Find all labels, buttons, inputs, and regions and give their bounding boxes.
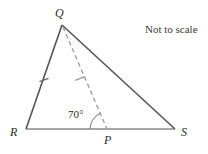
geometry-figure: Q R S P 70° Not to scale xyxy=(0,0,208,154)
vertex-label-Q: Q xyxy=(55,7,64,19)
angle-label-QPR: 70° xyxy=(68,109,83,120)
vertex-label-R: R xyxy=(10,126,17,138)
vertex-label-P: P xyxy=(104,134,111,146)
not-to-scale-note: Not to scale xyxy=(145,24,198,35)
angle-arc-QPR xyxy=(90,113,101,129)
vertex-label-S: S xyxy=(181,126,187,138)
tick-mark-cevian-QP xyxy=(76,77,85,81)
segment-side-RQ xyxy=(26,25,62,129)
